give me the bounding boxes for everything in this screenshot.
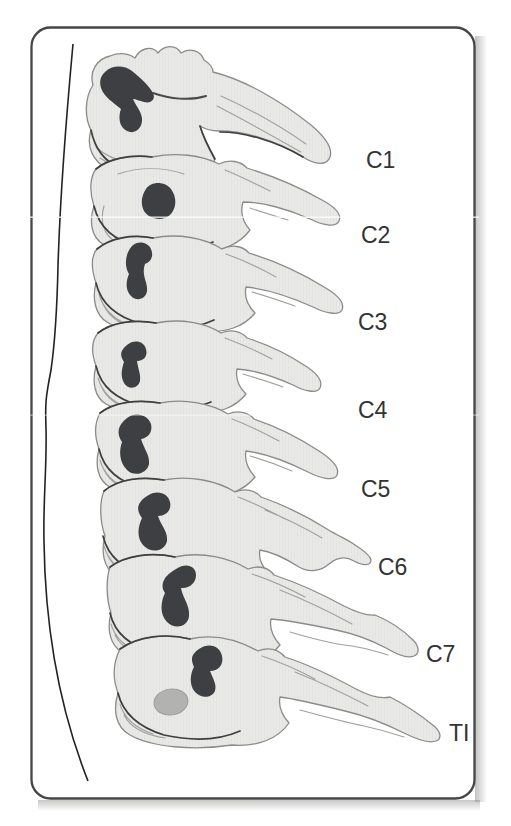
label-c7: C7 — [426, 641, 455, 667]
scanned-page: C1 C2 C3 C4 C5 C6 C7 TI — [0, 0, 511, 826]
label-c3: C3 — [358, 309, 387, 335]
foramen-c2 — [142, 183, 176, 219]
label-c1: C1 — [366, 147, 395, 173]
label-t1: TI — [449, 720, 469, 746]
label-c2: C2 — [361, 222, 390, 248]
label-c6: C6 — [378, 554, 407, 580]
scan-artifact-line-2 — [29, 415, 479, 416]
page-shadow-right — [475, 36, 487, 802]
label-c4: C4 — [358, 397, 388, 423]
label-c5: C5 — [361, 476, 390, 502]
cervical-spine-figure: C1 C2 C3 C4 C5 C6 C7 TI — [0, 0, 511, 826]
page-shadow-bottom — [38, 800, 480, 811]
scan-artifact-line — [29, 217, 479, 218]
